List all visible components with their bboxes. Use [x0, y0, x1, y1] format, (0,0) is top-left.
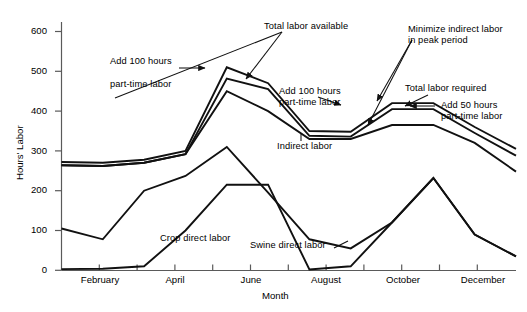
annotation-add-50-hours-line1: Add 50 hours — [441, 100, 498, 110]
annotation-add-100-hours-spring: Add 100 hours part-time labor — [110, 45, 172, 91]
x-tick-august: August — [297, 274, 355, 285]
series-swine-direct-labor — [62, 178, 517, 270]
leader-total-required — [405, 95, 428, 106]
annotation-add-50-hours: Add 50 hours part-time labor — [441, 100, 502, 123]
y-tick-500: 500 — [21, 65, 47, 76]
x-tick-december: December — [450, 274, 516, 285]
y-axis-title: Hours' Labor — [14, 125, 25, 180]
annotation-minimize-indirect-labor: Minimize indirect labor in peak period — [408, 24, 503, 47]
x-tick-february: February — [69, 274, 131, 285]
y-tick-400: 400 — [21, 105, 47, 116]
x-axis-title: Month — [262, 290, 289, 301]
x-tick-june: June — [226, 274, 276, 285]
annotation-add-100-hours-summer-line2: part-time labor — [279, 97, 340, 107]
annotation-add-100-hours-summer: Add 100 hours part-time labor — [279, 86, 341, 109]
annotation-minimize-indirect-labor-line2: in peak period — [408, 35, 468, 45]
x-tick-april: April — [150, 274, 200, 285]
annotation-crop-direct-labor: Crop direct labor — [160, 233, 230, 244]
annotation-add-100-hours-spring-line2: part-time labor — [110, 79, 171, 89]
annotation-swine-direct-labor: Swine direct labor — [250, 240, 326, 251]
annotation-add-100-hours-spring-line1: Add 100 hours — [110, 56, 172, 66]
y-tick-100: 100 — [21, 224, 47, 235]
annotation-total-labor-required: Total labor required — [405, 83, 487, 94]
y-axis-ticks — [55, 32, 62, 271]
annotation-indirect-labor: Indirect labor — [277, 141, 332, 152]
annotation-add-50-hours-line2: part-time labor — [441, 111, 502, 121]
labor-line-chart: 600 500 400 300 200 100 0 Hours' Labor F… — [0, 0, 527, 312]
x-axis-ticks — [99, 265, 477, 271]
y-tick-200: 200 — [21, 184, 47, 195]
annotation-add-100-hours-summer-line1: Add 100 hours — [279, 86, 341, 96]
y-tick-600: 600 — [21, 25, 47, 36]
annotation-total-labor-available: Total labor available — [264, 21, 348, 32]
y-tick-0: 0 — [21, 264, 47, 275]
x-tick-october: October — [374, 274, 432, 285]
annotation-minimize-indirect-labor-line1: Minimize indirect labor — [408, 24, 503, 34]
